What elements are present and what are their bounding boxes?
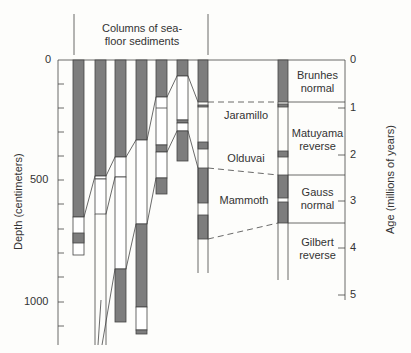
- epoch-brunhes-line1: Brunhes: [290, 69, 345, 82]
- depth-tick-500: 500: [30, 173, 48, 185]
- epoch-matuyama: Matuyama reverse: [290, 127, 345, 153]
- age-tick-5: 5: [350, 288, 356, 300]
- epoch-brunhes-line2: normal: [290, 82, 345, 95]
- epoch-matuyama-line2: reverse: [290, 140, 345, 153]
- epoch-brunhes: Brunhes normal: [290, 69, 345, 95]
- epoch-gauss-line2: normal: [290, 199, 345, 212]
- age-tick-2: 2: [350, 148, 356, 160]
- age-axis-label: Age (millions of years): [384, 125, 396, 234]
- magnetic-reversal-diagram: Columns of sea- floor sediments 0 500 10…: [0, 0, 411, 353]
- epoch-gauss-line1: Gauss: [290, 186, 345, 199]
- age-tick-1: 1: [350, 101, 356, 113]
- age-tick-4: 4: [350, 241, 356, 253]
- epoch-gauss: Gauss normal: [290, 186, 345, 212]
- epoch-gilbert-line2: reverse: [290, 249, 345, 262]
- epoch-gilbert-line1: Gilbert: [290, 236, 345, 249]
- title: Columns of sea- floor sediments: [96, 22, 188, 48]
- title-line1: Columns of sea-: [96, 22, 188, 35]
- age-tick-0: 0: [350, 53, 356, 65]
- epoch-gilbert: Gilbert reverse: [290, 236, 345, 262]
- depth-axis-label: Depth (centimeters): [12, 153, 24, 250]
- age-tick-3: 3: [350, 194, 356, 206]
- title-line2: floor sediments: [96, 35, 188, 48]
- event-olduvai: Olduvai: [218, 152, 274, 165]
- depth-tick-0: 0: [45, 53, 51, 65]
- event-mammoth: Mammoth: [214, 194, 274, 207]
- epoch-matuyama-line1: Matuyama: [290, 127, 345, 140]
- event-jaramillo: Jaramillo: [218, 109, 274, 122]
- depth-tick-1000: 1000: [24, 295, 48, 307]
